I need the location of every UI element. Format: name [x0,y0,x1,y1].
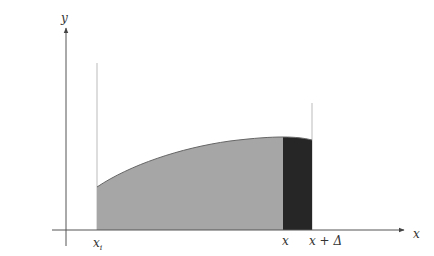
tick-label-xi: xi [93,236,103,252]
area-diagram: y x xi x x + Δ [0,0,434,256]
y-axis-label: y [60,11,68,25]
tick-label-x-plus-delta: x + Δ [309,234,342,248]
increment-strip-region [283,137,312,230]
accumulated-area-region [97,137,283,230]
x-axis-label: x [413,227,420,241]
tick-label-x: x [282,234,289,248]
